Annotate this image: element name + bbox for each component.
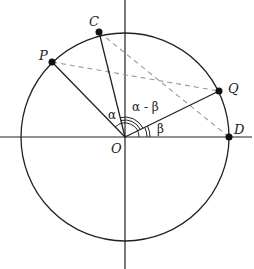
label-o: O [111, 141, 122, 156]
unit-circle-diagram: P C Q D O α α - β β [0, 0, 254, 269]
beta-arc-1 [145, 127, 147, 137]
label-alpha-minus-beta: α - β [132, 100, 159, 114]
point-p [49, 59, 56, 66]
chord-cd [99, 32, 229, 137]
chord-pq [52, 62, 219, 91]
label-p: P [38, 48, 48, 63]
point-q [216, 88, 223, 95]
label-alpha: α [108, 108, 116, 122]
label-c: C [89, 14, 99, 29]
point-c [96, 29, 103, 36]
label-beta: β [157, 122, 164, 136]
beta-arc-2 [148, 126, 151, 137]
label-q: Q [228, 81, 239, 96]
radius-oq [125, 91, 219, 137]
point-d [226, 134, 233, 141]
label-d: D [233, 122, 245, 137]
